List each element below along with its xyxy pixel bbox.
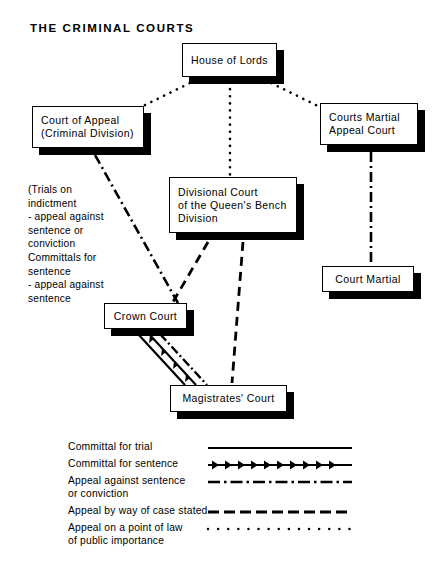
arrowhead-committal-sentence-1: [149, 336, 154, 343]
node-face: Crown Court: [104, 303, 187, 329]
arrowhead-committal-sentence-4: [185, 375, 190, 382]
page-title: THE CRIMINAL COURTS: [30, 22, 194, 34]
wire-crown-court-to-magistrates-solid: [138, 334, 185, 385]
legend-label: Appeal against sentence or conviction: [68, 475, 185, 500]
node-face: Court of Appeal (Criminal Division): [32, 106, 144, 148]
node-label: Court Martial: [331, 273, 404, 286]
node-court-martial[interactable]: Court Martial: [322, 266, 414, 292]
arrowhead-committal-sentence-2: [161, 349, 166, 356]
node-magistrates-court[interactable]: Magistrates' Court: [170, 385, 287, 412]
node-label: Crown Court: [110, 310, 181, 323]
wire-divisional-court-to-crown-court: [170, 242, 208, 307]
node-label: Court of Appeal (Criminal Division): [33, 114, 138, 140]
wire-crown-court-to-magistrates-arrows: [149, 334, 196, 385]
legend-sample-dash-dot: [206, 476, 354, 488]
node-divisional-court[interactable]: Divisional Court of the Queen's Bench Di…: [169, 177, 297, 233]
node-label: Courts Martial Appeal Court: [321, 111, 404, 137]
legend-sample-arrows: [206, 459, 354, 471]
legend-label: Appeal on a point of law of public impor…: [68, 522, 183, 547]
legend-label: Appeal by way of case stated: [68, 505, 208, 518]
criminal-courts-diagram: THE CRIMINAL COURTS: [0, 0, 436, 566]
crown-court-annotation: (Trials on indictment - appeal against s…: [28, 183, 146, 305]
wire-crown-court-to-magistrates-dashdot: [160, 334, 207, 385]
node-house-of-lords[interactable]: House of Lords: [182, 43, 277, 77]
legend-label: Committal for trial: [68, 441, 152, 454]
node-label: Divisional Court of the Queen's Bench Di…: [170, 186, 291, 225]
node-court-of-appeal[interactable]: Court of Appeal (Criminal Division): [32, 106, 144, 148]
node-face: Court Martial: [322, 266, 414, 292]
legend-sample-solid: [206, 442, 354, 454]
legend-label: Committal for sentence: [68, 458, 178, 471]
legend-sample-dotted: [206, 523, 354, 535]
arrowhead-committal-sentence-3: [173, 362, 178, 369]
node-face: House of Lords: [182, 43, 277, 77]
node-label: Magistrates' Court: [178, 392, 278, 405]
node-label: House of Lords: [187, 54, 272, 67]
node-crown-court[interactable]: Crown Court: [104, 303, 187, 329]
node-face: Divisional Court of the Queen's Bench Di…: [169, 177, 297, 233]
wire-divisional-court-to-magistrates-court: [232, 242, 243, 383]
node-courts-martial-appeal-court[interactable]: Courts Martial Appeal Court: [320, 103, 418, 145]
node-face: Courts Martial Appeal Court: [320, 103, 418, 145]
node-face: Magistrates' Court: [170, 385, 287, 412]
legend-sample-dashed: [206, 506, 354, 518]
